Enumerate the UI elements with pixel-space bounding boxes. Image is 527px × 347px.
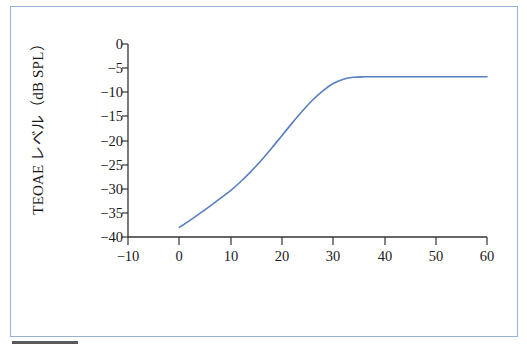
x-tick-label: 0 xyxy=(156,248,202,265)
y-tick-label-group: 0 −5 −10 −15 −20 −25 −30 −35 −40 xyxy=(67,0,123,347)
x-tick-label: 50 xyxy=(413,248,459,265)
y-axis-title: TEOAE レベル（dB SPL） xyxy=(26,16,47,236)
y-tick-label: −25 xyxy=(75,157,123,174)
x-tick-label: 10 xyxy=(208,248,254,265)
x-tick-label: −10 xyxy=(105,248,151,265)
y-tick-label: −10 xyxy=(75,84,123,101)
x-tick-label: 40 xyxy=(362,248,408,265)
y-tick-label: −40 xyxy=(75,229,123,246)
y-tick-label: 0 xyxy=(75,36,123,53)
y-tick-label: −15 xyxy=(75,108,123,125)
x-tick-label-group: −10 0 10 20 30 40 50 60 xyxy=(0,248,527,272)
y-tick-label: −5 xyxy=(75,60,123,77)
x-tick-label: 60 xyxy=(464,248,510,265)
teoae-io-curve xyxy=(179,77,487,228)
x-tick-label: 20 xyxy=(259,248,305,265)
x-tick-marks xyxy=(128,237,487,245)
y-tick-label: −35 xyxy=(75,205,123,222)
x-tick-label: 30 xyxy=(310,248,356,265)
y-tick-label: −30 xyxy=(75,181,123,198)
y-tick-label: −20 xyxy=(75,133,123,150)
teoae-input-output-chart: TEOAE レベル（dB SPL） 0 −5 −10 −15 −20 −25 −… xyxy=(0,0,527,347)
